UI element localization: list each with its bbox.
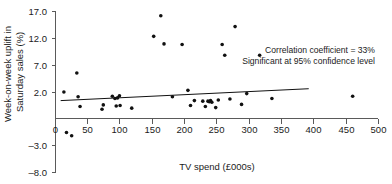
y-axis-title: Week-on-week uplift in Saturday sales (%… xyxy=(2,26,25,122)
y-tick-label-2: 2.0 xyxy=(34,87,47,98)
y-axis-title-line-1: Week-on-week uplift in xyxy=(2,26,13,122)
data-point xyxy=(159,14,163,18)
data-point xyxy=(233,25,237,29)
x-tick-label-0: 0 xyxy=(53,124,58,135)
data-point xyxy=(204,105,208,109)
y-axis-tick-labels: 17.0 12.0 7.0 2.0 –3.0 –8.0 xyxy=(29,6,48,178)
data-point xyxy=(118,104,122,108)
data-point xyxy=(100,107,104,111)
x-axis xyxy=(56,119,379,124)
data-point xyxy=(130,106,134,110)
data-point xyxy=(216,98,220,102)
data-point xyxy=(62,90,66,94)
y-axis xyxy=(52,11,56,173)
scatter-chart: Week-on-week uplift in Saturday sales (%… xyxy=(0,0,392,184)
x-tick-label-50: 50 xyxy=(82,124,93,135)
x-tick-label-200: 200 xyxy=(177,124,193,135)
x-tick-label-300: 300 xyxy=(242,124,258,135)
data-point xyxy=(214,106,218,110)
chart-canvas: Week-on-week uplift in Saturday sales (%… xyxy=(0,0,392,184)
annotation-significance: Significant at 95% confidence level xyxy=(242,56,375,66)
data-point xyxy=(75,71,79,75)
data-point xyxy=(228,97,232,101)
data-point xyxy=(210,100,214,104)
y-tick-label-minus3: –3.0 xyxy=(29,140,48,151)
data-point xyxy=(114,104,118,108)
x-axis-tick-labels: 0 50 100 150 200 250 300 350 400 450 500 xyxy=(53,124,387,135)
data-point xyxy=(189,104,193,108)
data-point xyxy=(180,43,184,47)
data-point xyxy=(70,134,74,138)
annotation-correlation: Correlation coefficient = 33% xyxy=(265,45,375,55)
data-point xyxy=(76,95,80,99)
data-point xyxy=(220,43,224,47)
y-tick-label-7: 7.0 xyxy=(34,60,47,71)
data-point xyxy=(240,103,244,107)
data-point xyxy=(171,95,175,99)
data-point xyxy=(162,42,166,46)
annotation-block: Correlation coefficient = 33% Significan… xyxy=(242,45,375,66)
data-point xyxy=(258,53,262,57)
x-tick-label-450: 450 xyxy=(339,124,355,135)
y-tick-label-17: 17.0 xyxy=(29,6,48,17)
data-point xyxy=(152,35,156,39)
y-tick-label-minus8: –8.0 xyxy=(29,167,48,178)
x-axis-title: TV spend (£000s) xyxy=(179,161,255,172)
data-point xyxy=(65,131,69,135)
x-tick-label-350: 350 xyxy=(274,124,290,135)
data-point xyxy=(193,99,197,103)
data-point xyxy=(351,94,355,98)
data-point xyxy=(245,92,249,96)
data-point xyxy=(118,94,122,98)
data-point xyxy=(186,89,190,93)
data-point xyxy=(223,53,227,57)
y-axis-title-line-2: Saturday sales (%) xyxy=(14,32,25,112)
data-point xyxy=(102,103,106,107)
data-point xyxy=(270,97,274,101)
x-tick-label-400: 400 xyxy=(306,124,322,135)
x-tick-label-500: 500 xyxy=(371,124,387,135)
data-point xyxy=(201,99,205,103)
x-tick-label-250: 250 xyxy=(209,124,225,135)
y-tick-label-12: 12.0 xyxy=(29,33,48,44)
x-tick-label-150: 150 xyxy=(145,124,161,135)
data-point xyxy=(78,105,82,109)
x-tick-label-100: 100 xyxy=(112,124,128,135)
